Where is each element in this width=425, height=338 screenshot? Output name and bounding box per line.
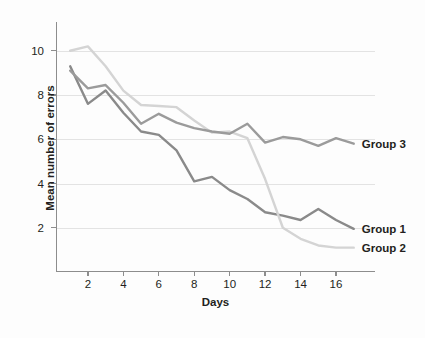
series-line-group-2	[70, 46, 354, 247]
y-tick-label: 2	[10, 222, 44, 234]
x-tick-label: 2	[78, 278, 98, 290]
series-label-group-2: Group 2	[362, 242, 406, 254]
chart-figure: 246810 246810121416 Group 1Group 2Group …	[0, 0, 425, 338]
x-tick-label: 10	[220, 278, 240, 290]
y-tick-label: 4	[10, 178, 44, 190]
x-tick-label: 8	[184, 278, 204, 290]
series-label-group-1: Group 1	[362, 223, 406, 235]
x-tick-label: 14	[291, 278, 311, 290]
y-tick-label: 6	[10, 133, 44, 145]
x-tick-label: 4	[113, 278, 133, 290]
series-line-group-3	[70, 71, 354, 146]
series-lines	[56, 22, 375, 272]
x-axis-title: Days	[56, 296, 375, 308]
plot-area: 246810 246810121416 Group 1Group 2Group …	[56, 22, 375, 272]
y-tick-label: 10	[10, 45, 44, 57]
y-axis-title: Mean number of errors	[44, 85, 56, 210]
series-label-group-3: Group 3	[362, 138, 406, 150]
x-tick-label: 6	[149, 278, 169, 290]
x-tick-label: 16	[326, 278, 346, 290]
x-tick-label: 12	[255, 278, 275, 290]
y-tick-label: 8	[10, 89, 44, 101]
